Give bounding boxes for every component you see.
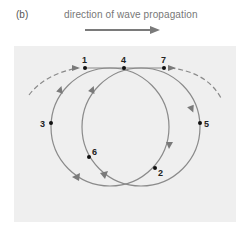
point-label-6: 6	[92, 147, 97, 157]
point-label-4: 4	[121, 55, 126, 65]
point-label-3: 3	[40, 119, 45, 129]
wave-orbit-diagram: 1 2 3 4 5 6 7	[0, 0, 242, 235]
point-label-2: 2	[158, 168, 163, 178]
point-4	[122, 66, 126, 70]
diagram-panel	[14, 46, 236, 222]
point-7	[162, 66, 166, 70]
point-5	[198, 121, 202, 125]
point-6	[87, 155, 91, 159]
point-label-7: 7	[161, 55, 166, 65]
point-1	[83, 66, 87, 70]
point-2	[153, 166, 157, 170]
point-3	[49, 121, 53, 125]
point-label-5: 5	[204, 119, 209, 129]
propagation-arrow	[85, 26, 160, 34]
point-label-1: 1	[82, 55, 87, 65]
